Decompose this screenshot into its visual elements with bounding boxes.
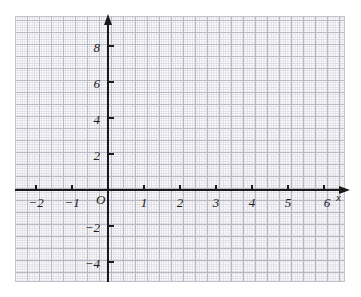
y-tick-label-2: 2: [86, 149, 100, 162]
axes-layer: [0, 0, 361, 297]
y-tick-label--2: −2: [78, 221, 100, 234]
x-axis-label: x: [336, 192, 341, 203]
origin-label: O: [96, 193, 105, 206]
y-tick-label--4: −4: [78, 257, 100, 270]
y-axis-ticks: [108, 46, 114, 262]
x-tick-label-3: 3: [213, 196, 220, 209]
y-tick-label-4: 4: [86, 113, 100, 126]
y-axis-arrowhead: [104, 14, 112, 25]
coordinate-grid-figure: O −2 −1 1 2 3 4 5 6 x 8 6 4 2 −2 −4: [0, 0, 361, 297]
y-tick-label-8: 8: [86, 41, 100, 54]
x-tick-label-1: 1: [141, 196, 148, 209]
x-tick-label-6: 6: [324, 196, 331, 209]
x-tick-label--1: −1: [64, 196, 79, 209]
x-tick-label-4: 4: [249, 196, 256, 209]
x-tick-label-5: 5: [285, 196, 292, 209]
x-tick-label-2: 2: [177, 196, 184, 209]
y-tick-label-6: 6: [86, 77, 100, 90]
x-tick-label--2: −2: [28, 196, 43, 209]
x-axis-ticks: [36, 185, 324, 190]
